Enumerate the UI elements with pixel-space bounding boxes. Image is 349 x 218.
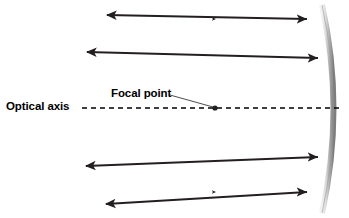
reflected-ray-4 (106, 192, 307, 204)
focal-point-leader-line (170, 95, 213, 107)
figure-canvas: Optical axis Focal point (0, 0, 349, 218)
reflected-rays (86, 15, 318, 204)
focal-point-marker (212, 105, 217, 110)
reflected-ray-3 (86, 157, 318, 166)
focal-point-label: Focal point (111, 87, 171, 99)
concave-mirror (322, 5, 334, 213)
incoming-rays (85, 19, 317, 192)
optical-axis-label: Optical axis (6, 100, 69, 112)
